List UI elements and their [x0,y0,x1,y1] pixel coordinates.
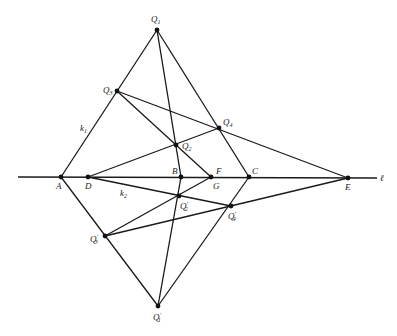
label-Q4-prime: Q′4 [228,211,237,222]
point-Q1 [155,28,160,33]
label-F: F [215,166,222,176]
line-Q1-B [157,30,181,177]
line-D-Q4 [88,128,219,177]
label-l: ℓ [380,173,384,183]
line-Q3p-F [105,177,211,236]
line-Q3p-E [105,178,348,236]
label-A: A [55,181,62,191]
label-k1: k1 [80,123,87,134]
line-Q1-C [157,30,249,177]
label-G: G [213,181,220,191]
label-k2: k2 [120,188,127,199]
point-Q2-prime [177,194,182,199]
line-Q1p-C [158,177,249,306]
label-C: C [252,166,259,176]
point-Q4 [217,126,222,131]
point-E [346,176,351,181]
projective-geometry-diagram: ℓ Q1 Q3 Q4 Q2 k1 k2 A D B F G C E Q′2 Q′… [0,0,397,336]
point-Q3 [115,89,120,94]
line-Q3-E [117,91,348,178]
point-B [179,175,184,180]
line-Q3-F [117,91,211,177]
line-k1-A-Q1 [61,30,157,177]
label-B: B [172,166,178,176]
point-D [86,175,91,180]
line-A-Q1p [61,177,158,306]
point-Q4-prime [229,204,234,209]
label-Q1-prime: Q′1 [153,312,162,323]
point-Q2 [174,143,179,148]
label-E: E [344,182,351,192]
point-F [209,175,214,180]
label-Q3-prime: Q′3 [90,234,99,245]
line-k2-D-Q4p [88,177,231,206]
line-l [18,177,377,178]
label-Q2: Q2 [182,141,192,152]
label-Q2-prime: Q′2 [180,201,189,212]
label-Q1: Q1 [151,14,161,25]
label-Q4: Q4 [223,117,233,128]
point-Q1-prime [156,304,161,309]
point-Q3-prime [103,234,108,239]
point-C [247,175,252,180]
point-A [59,175,64,180]
label-Q3: Q3 [103,85,113,96]
label-D: D [84,181,92,191]
